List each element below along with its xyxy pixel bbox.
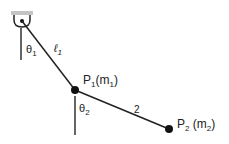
- mass-1: [71, 86, 79, 94]
- ceiling-mount: [11, 11, 33, 15]
- theta1-label: θ1: [26, 44, 37, 59]
- p2-label: P2 (m2): [177, 119, 215, 134]
- length2-label: 2: [134, 104, 140, 115]
- length1-label: ℓ1: [54, 43, 62, 58]
- p1-label: P1(m1): [83, 75, 118, 90]
- mass-2: [165, 125, 173, 133]
- theta2-label: θ2: [79, 103, 90, 118]
